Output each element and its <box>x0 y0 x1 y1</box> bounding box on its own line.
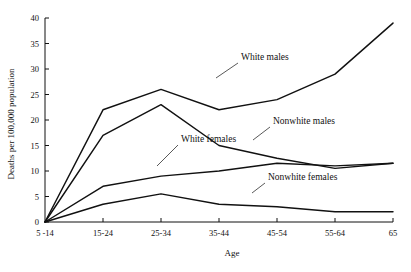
series-lines <box>45 23 393 222</box>
x-tick-label: 5 -14 <box>36 228 54 238</box>
annotation-label-nonwhite-males: Nonwhite males <box>273 116 335 126</box>
y-tick-label: 5 <box>35 192 39 202</box>
annotation-leader-white-females <box>157 145 178 166</box>
series-line-white-males <box>45 23 393 222</box>
y-tick-label: 25 <box>31 90 40 100</box>
x-axis: 5 -1415-2425-3435-4445-5455-6465 <box>36 218 397 238</box>
chart-container: 0510152025303540 5 -1415-2425-3435-4445-… <box>0 0 411 272</box>
y-tick-label: 30 <box>31 64 40 74</box>
x-axis-title: Age <box>225 248 240 258</box>
annotation-leader-nonwhite-females <box>252 183 265 193</box>
y-axis: 0510152025303540 <box>31 13 50 227</box>
y-tick-label: 15 <box>31 141 40 151</box>
y-axis-title: Deaths per 100,000 population <box>6 68 16 179</box>
y-tick-label: 20 <box>31 115 40 125</box>
y-tick-label: 0 <box>35 217 39 227</box>
annotation-leader-nonwhite-males <box>253 127 270 140</box>
x-tick-label: 35-44 <box>209 228 230 238</box>
x-tick-label: 15-24 <box>93 228 114 238</box>
annotation-label-white-females: White females <box>181 134 236 144</box>
x-tick-label: 25-34 <box>151 228 172 238</box>
annotation-label-white-males: White males <box>241 52 289 62</box>
y-tick-label: 10 <box>31 166 40 176</box>
x-tick-label: 65 <box>389 228 398 238</box>
series-line-white-females <box>45 163 393 222</box>
y-tick-label: 40 <box>31 13 40 23</box>
line-chart: 0510152025303540 5 -1415-2425-3435-4445-… <box>0 0 411 272</box>
x-tick-label: 55-64 <box>325 228 346 238</box>
annotation-leader-white-males <box>216 63 238 78</box>
x-tick-label: 45-54 <box>267 228 288 238</box>
annotation-label-nonwhite-females: Nonwhite females <box>268 172 338 182</box>
y-tick-label: 35 <box>31 39 40 49</box>
series-line-nonwhite-females <box>45 194 393 222</box>
series-annotations: White malesNonwhite malesWhite femalesNo… <box>157 52 338 193</box>
